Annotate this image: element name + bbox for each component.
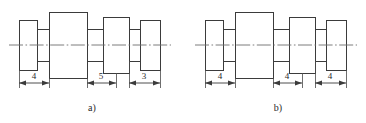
dim-b-3: 4 bbox=[315, 71, 346, 85]
figure-sheet: 4 5 3 a) bbox=[0, 0, 366, 123]
figure-b: 4 4 4 b) bbox=[195, 12, 357, 114]
arrow-right-icon bbox=[228, 81, 235, 86]
figure-b-caption: b) bbox=[274, 102, 282, 114]
dim-b-1-label: 4 bbox=[218, 71, 223, 81]
dim-a-2-label: 5 bbox=[99, 71, 104, 81]
arrow-right-icon bbox=[295, 81, 302, 86]
extension-lines-a bbox=[19, 61, 160, 88]
dim-a-3-label: 3 bbox=[142, 71, 147, 81]
arrow-left-icon bbox=[273, 81, 280, 86]
arrow-right-icon bbox=[109, 81, 116, 86]
dim-a-1-label: 4 bbox=[32, 71, 37, 81]
arrow-left-icon bbox=[315, 81, 322, 86]
dim-a-3: 3 bbox=[129, 71, 160, 85]
arrow-right-icon bbox=[339, 81, 346, 86]
figure-a: 4 5 3 a) bbox=[9, 12, 171, 114]
figure-a-caption: a) bbox=[88, 102, 96, 114]
dim-b-1: 4 bbox=[205, 71, 235, 85]
dim-b-3-label: 4 bbox=[328, 71, 333, 81]
arrow-right-icon bbox=[42, 81, 49, 86]
arrow-left-icon bbox=[87, 81, 94, 86]
dim-a-1: 4 bbox=[19, 71, 49, 85]
extension-lines-b bbox=[205, 61, 346, 88]
arrow-left-icon bbox=[19, 81, 26, 86]
technical-drawing-canvas: 4 5 3 a) bbox=[0, 0, 366, 123]
arrow-right-icon bbox=[153, 81, 160, 86]
dim-b-2-label: 4 bbox=[285, 71, 290, 81]
arrow-left-icon bbox=[205, 81, 212, 86]
arrow-left-icon bbox=[129, 81, 136, 86]
